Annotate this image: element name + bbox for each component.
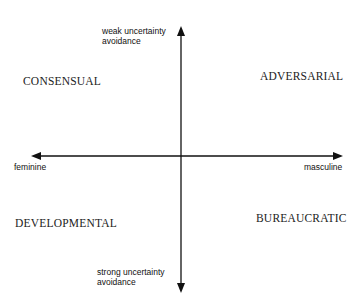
quadrant-label-consensual: CONSENSUAL xyxy=(23,75,101,87)
arrow-left-icon xyxy=(31,152,41,160)
quadrant-label-bureaucratic: BUREAUCRATIC xyxy=(256,212,347,224)
quadrant-label-adversarial: ADVERSARIAL xyxy=(260,70,343,82)
axis-label-feminine: feminine xyxy=(14,163,46,173)
axis-label-strong-uncertainty-avoidance: strong uncertainty avoidance xyxy=(97,268,165,287)
quadrant-label-developmental: DEVELOPMENTAL xyxy=(15,217,117,229)
arrow-down-icon xyxy=(177,283,185,293)
arrow-up-icon xyxy=(177,26,185,36)
axis-label-masculine: masculine xyxy=(304,163,342,173)
arrow-right-icon xyxy=(333,152,343,160)
axis-label-weak-uncertainty-avoidance: weak uncertainty avoidance xyxy=(102,27,166,46)
axes-graphic xyxy=(0,0,364,305)
quadrant-diagram: weak uncertainty avoidance strong uncert… xyxy=(0,0,364,305)
